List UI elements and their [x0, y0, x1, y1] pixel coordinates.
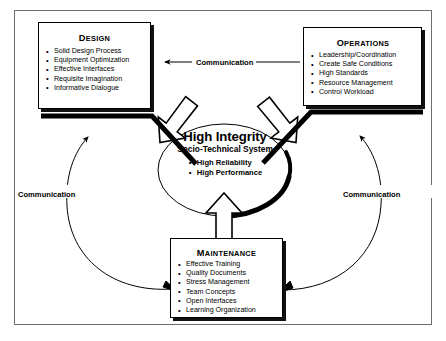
list-item: Informative Dialogue [45, 84, 144, 93]
maintenance-title-rest: AINTENANCE [205, 249, 256, 258]
list-item: High Performance [188, 168, 262, 178]
list-item: High Reliability [188, 158, 262, 168]
design-title-cap: D [79, 33, 86, 43]
diagram-canvas: DESIGN Solid Design Process Equipment Op… [0, 0, 446, 341]
list-item: Resource Management [310, 79, 416, 88]
hub-heading: High Integrity [161, 129, 289, 144]
list-item: Effective Training [177, 260, 276, 269]
communication-label-left: Communication [18, 190, 75, 199]
operations-title: OPERATIONS [310, 33, 416, 49]
list-item: Learning Organization [177, 306, 276, 315]
list-item: Open Interfaces [177, 297, 276, 306]
maintenance-title: MAINTENANCE [177, 243, 276, 259]
list-item: Quality Documents [177, 269, 276, 278]
operations-title-rest: PERATIONS [344, 39, 389, 48]
maintenance-item-list: Effective Training Quality Documents Str… [177, 260, 276, 315]
design-title: DESIGN [45, 28, 144, 44]
design-item-list: Solid Design Process Equipment Optimizat… [45, 47, 144, 93]
list-item: Effective Interfaces [45, 65, 144, 74]
list-item: Team Concepts [177, 288, 276, 297]
figure-caption [0, 333, 446, 341]
design-title-rest: ESIGN [86, 34, 111, 43]
node-box-design[interactable]: DESIGN Solid Design Process Equipment Op… [38, 22, 151, 109]
list-item: High Standards [310, 69, 416, 78]
list-item: Solid Design Process [45, 47, 144, 56]
list-item: Equipment Optimization [45, 56, 144, 65]
communication-label-right: Communication [343, 190, 400, 199]
hub-attribute-list: High Reliability High Performance [188, 158, 262, 178]
list-item: Leadership/Coordination [310, 51, 416, 60]
hub-subheading: Socio-Technical System [161, 144, 289, 155]
list-item: Requisite Imagination [45, 75, 144, 84]
hub-label-group: High Integrity Socio-Technical System Hi… [161, 129, 289, 179]
node-box-operations[interactable]: OPERATIONS Leadership/Coordination Creat… [303, 27, 422, 106]
node-box-maintenance[interactable]: MAINTENANCE Effective Training Quality D… [170, 238, 283, 318]
communication-label-top: Communication [196, 58, 253, 67]
operations-item-list: Leadership/Coordination Create Safe Cond… [310, 51, 416, 97]
operations-title-cap: O [337, 38, 344, 48]
list-item: Create Safe Conditions [310, 60, 416, 69]
list-item: Control Workload [310, 88, 416, 97]
list-item: Stress Management [177, 278, 276, 287]
maintenance-title-cap: M [197, 248, 205, 258]
